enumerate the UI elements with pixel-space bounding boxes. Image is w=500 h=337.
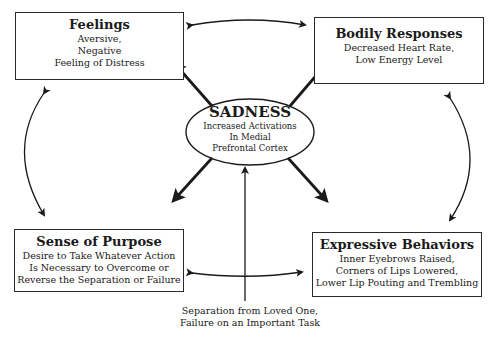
expressive-behaviors-box: Expressive Behaviors Inner Eyebrows Rais… <box>312 232 482 297</box>
bodily-line: Low Energy Level <box>315 54 483 66</box>
purpose-line: Reverse the Separation or Failure <box>15 274 183 286</box>
purpose-line: Is Necessary to Overcome or <box>15 262 183 274</box>
feelings-line: Aversive, <box>16 33 183 45</box>
sadness-line: Increased Activations <box>190 121 310 132</box>
arrow-feelings-bodily <box>192 20 305 25</box>
cause-label: Separation from Loved One, Failure on an… <box>170 305 330 329</box>
bodily-title: Bodily Responses <box>315 26 483 42</box>
purpose-title: Sense of Purpose <box>15 234 183 250</box>
purpose-line: Desire to Take Whatever Action <box>15 250 183 262</box>
bodily-line: Decreased Heart Rate, <box>315 42 483 54</box>
arrow-bodily-expressive <box>450 98 470 220</box>
cause-line: Failure on an Important Task <box>170 317 330 329</box>
expressive-title: Expressive Behaviors <box>313 237 481 253</box>
arrow-feelings-purpose <box>25 93 45 215</box>
feelings-title: Feelings <box>16 17 183 33</box>
expressive-line: Inner Eyebrows Raised, <box>313 253 481 265</box>
sadness-title: SADNESS <box>190 103 310 121</box>
arrow-purpose-expressive <box>192 272 302 276</box>
sadness-line: In Medial <box>190 132 310 143</box>
feelings-line: Feeling of Distress <box>16 57 183 69</box>
cause-line: Separation from Loved One, <box>170 305 330 317</box>
feelings-box: Feelings Aversive, Negative Feeling of D… <box>15 12 184 80</box>
arrow-to-purpose <box>174 158 212 200</box>
sense-of-purpose-box: Sense of Purpose Desire to Take Whatever… <box>14 229 184 292</box>
sadness-line: Prefrontal Cortex <box>190 143 310 154</box>
sadness-label: SADNESS Increased Activations In Medial … <box>190 103 310 154</box>
bodily-responses-box: Bodily Responses Decreased Heart Rate, L… <box>314 17 484 84</box>
expressive-line: Corners of Lips Lowered, <box>313 265 481 277</box>
feelings-line: Negative <box>16 45 183 57</box>
expressive-line: Lower Lip Pouting and Trembling <box>313 277 481 289</box>
arrow-to-expressive <box>288 158 326 200</box>
